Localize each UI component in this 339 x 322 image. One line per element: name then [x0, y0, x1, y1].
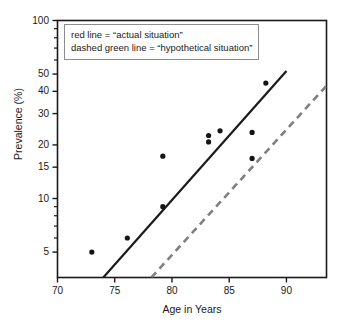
data-point — [89, 250, 94, 255]
data-point — [160, 204, 165, 209]
trend-lines — [103, 71, 326, 277]
legend: red line = “actual situation” dashed gre… — [64, 24, 259, 60]
data-point — [125, 235, 130, 240]
x-tick-label: 70 — [38, 286, 78, 296]
x-tick-label: 75 — [95, 286, 135, 296]
trend-line-actual-situation — [103, 71, 286, 277]
data-point — [249, 156, 254, 161]
y-tick-label: 5 — [8, 247, 49, 257]
x-tick-label: 85 — [209, 286, 249, 296]
x-tick-label: 90 — [266, 286, 306, 296]
x-tick-label: 80 — [152, 286, 192, 296]
legend-line-actual: red line = “actual situation” — [71, 29, 252, 42]
prevalence-vs-age-chart: 5101520304050100 7075808590 Prevalence (… — [0, 0, 339, 322]
data-point — [206, 139, 211, 144]
data-point — [160, 154, 165, 159]
trend-line-hypothetical-situation — [151, 86, 326, 278]
y-tick-label: 10 — [8, 194, 49, 204]
data-points — [89, 80, 268, 254]
x-axis-title: Age in Years — [57, 303, 327, 315]
data-point — [206, 133, 211, 138]
y-axis-title: Prevalence (%) — [12, 74, 24, 174]
legend-line-hypothetical: dashed green line = “hypothetical situat… — [71, 42, 252, 55]
data-point — [249, 130, 254, 135]
y-tick-label: 100 — [8, 16, 49, 26]
data-point — [263, 80, 268, 85]
data-point — [217, 128, 222, 133]
